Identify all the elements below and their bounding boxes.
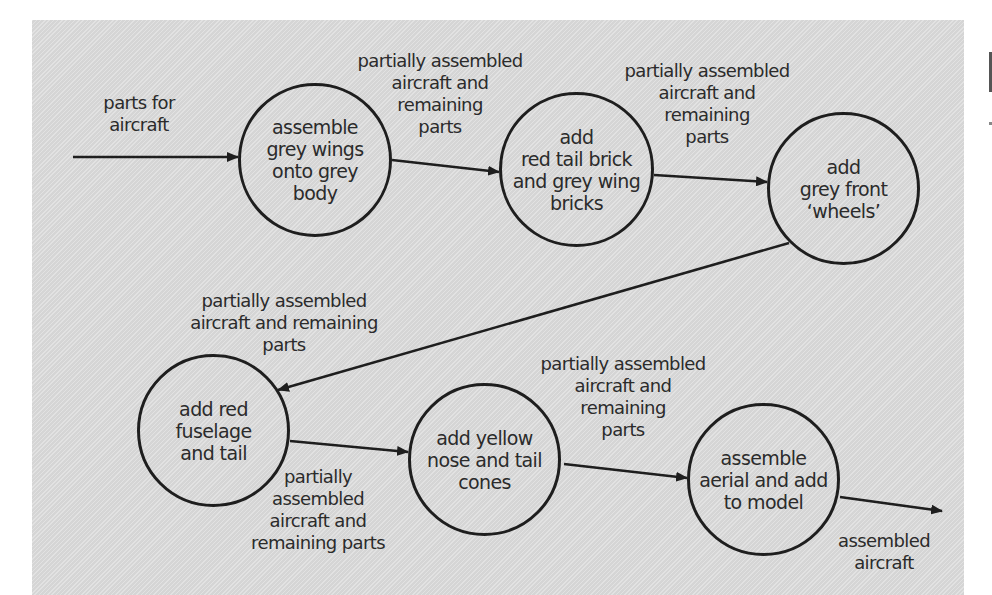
node-label: add red tail brick and grey wing bricks [513, 126, 640, 214]
flow-label-input: parts for aircraft [103, 92, 174, 136]
process-node-add-wheels: add grey front ‘wheels’ [767, 112, 920, 265]
flow-label-n3-n4: partially assembled aircraft and remaini… [190, 290, 377, 356]
arrow-n1-to-n2 [392, 160, 499, 172]
flow-label-n5-n6: partially assembled aircraft and remaini… [540, 353, 705, 441]
arrow-n2-to-n3 [654, 175, 767, 182]
process-node-add-cones: add yellow nose and tail cones [408, 383, 561, 536]
node-label: assemble grey wings onto grey body [266, 116, 363, 204]
flow-label-output: assembled aircraft [838, 530, 930, 574]
flow-label-n1-n2: partially assembled aircraft and remaini… [357, 50, 522, 138]
node-label: assemble aerial and add to model [699, 447, 828, 513]
arrow-n4-to-n5 [290, 441, 408, 452]
flow-label-n4-n5: partially assembled aircraft and remaini… [251, 466, 385, 554]
node-label: add yellow nose and tail cones [427, 427, 542, 493]
flow-label-n2-n3: partially assembled aircraft and remaini… [624, 60, 789, 148]
arrow-n5-to-n6 [564, 464, 687, 478]
node-label: add grey front ‘wheels’ [800, 156, 888, 222]
arrow-n6-to-output [840, 497, 942, 511]
process-node-assemble-aerial: assemble aerial and add to model [687, 403, 840, 556]
node-label: add red fuselage and tail [175, 398, 251, 464]
